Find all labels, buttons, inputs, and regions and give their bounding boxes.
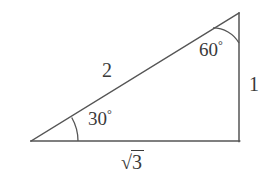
- radicand-value: 3: [131, 150, 144, 172]
- degree-sign-icon-60: °: [218, 38, 223, 52]
- angle-value-60: 60: [199, 39, 218, 60]
- degree-sign-icon-30: °: [107, 107, 112, 121]
- angle-value-30: 30: [88, 108, 107, 129]
- hypotenuse-length-label: 2: [102, 60, 112, 80]
- vertical-side-length-label: 1: [249, 74, 259, 94]
- sqrt-expression: √3: [120, 150, 144, 172]
- angle-arc-30: [72, 118, 78, 142]
- angle-label-60: 60°: [199, 40, 223, 59]
- angle-label-30: 30°: [88, 109, 112, 128]
- triangle-figure: 2 1 √3 30° 60°: [0, 0, 276, 181]
- triangle-hypotenuse-side: [31, 13, 239, 141]
- base-side-length-label: √3: [120, 150, 144, 172]
